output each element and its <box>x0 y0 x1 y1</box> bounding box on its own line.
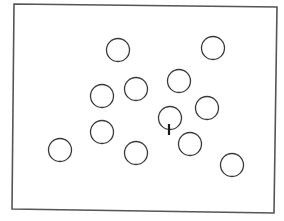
background <box>0 0 284 221</box>
figure-canvas <box>0 0 284 221</box>
